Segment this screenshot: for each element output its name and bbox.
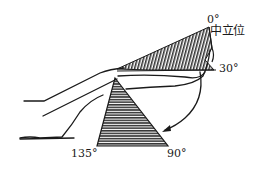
neutral-position-label: 中立位 — [210, 25, 245, 37]
knee-rom-diagram: 0° 中立位 30° 135° 90° — [0, 0, 269, 170]
arc-arrowhead — [162, 125, 171, 132]
one-thirty-five-degree-label: 135° — [71, 148, 98, 159]
thirty-degree-label: 30° — [219, 63, 239, 74]
extension-range-wedge — [117, 27, 216, 71]
ninety-degree-label: 90° — [167, 148, 187, 159]
